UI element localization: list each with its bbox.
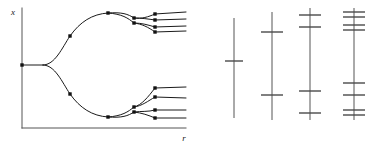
bifurcation-point-marker	[153, 25, 156, 28]
bifurcation-point-marker	[153, 30, 156, 33]
branch-curve	[108, 13, 134, 23]
branch-curve	[134, 112, 155, 118]
bifurcation-point-marker	[132, 105, 135, 108]
bifurcation-branches	[22, 12, 186, 118]
branch-curve	[43, 13, 108, 65]
bifurcation-point-marker	[153, 116, 156, 119]
branch-curve	[155, 87, 186, 88]
bifurcation-point-marker	[132, 110, 135, 113]
axes: x r	[10, 7, 186, 143]
branch-curve	[43, 65, 108, 117]
branch-curve	[134, 18, 155, 20]
bifurcation-point-marker	[132, 21, 135, 24]
bifurcation-figure: x r	[0, 0, 380, 164]
attractor-panel-period-4	[299, 8, 321, 120]
bifurcation-point-marker	[106, 115, 109, 118]
branch-curve	[155, 97, 186, 98]
branch-curve	[155, 12, 186, 14]
bifurcation-point-marker	[132, 16, 135, 19]
bifurcation-point-marker	[153, 86, 156, 89]
branch-curve	[155, 31, 186, 32]
branch-curve	[134, 88, 155, 107]
branch-curve	[155, 19, 186, 20]
attractor-panels	[225, 8, 365, 120]
bifurcation-diagram-canvas: x r	[0, 0, 380, 164]
bifurcation-point-marker	[106, 11, 109, 14]
bifurcation-point-marker	[153, 95, 156, 98]
attractor-panel-period-2	[261, 12, 283, 120]
x-axis-label: r	[182, 133, 186, 143]
bifurcation-point-marker	[153, 12, 156, 15]
bifurcation-point-marker	[153, 18, 156, 21]
attractor-panel-period-8	[343, 8, 365, 120]
attractor-panel-period-1	[225, 18, 243, 118]
branch-curve	[108, 107, 134, 117]
bifurcation-point-marker	[68, 34, 71, 37]
y-axis-label: x	[10, 7, 15, 17]
branch-curve	[155, 26, 186, 27]
bifurcation-point-marker	[153, 108, 156, 111]
branch-curve	[134, 110, 155, 112]
bifurcation-point-marker	[20, 63, 23, 66]
bifurcation-point-marker	[68, 92, 71, 95]
